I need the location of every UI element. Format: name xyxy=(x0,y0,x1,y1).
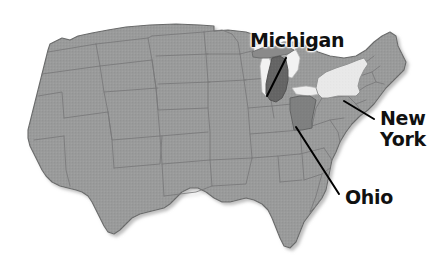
state-label-new-york: New York xyxy=(380,108,426,150)
us-map-graphic xyxy=(0,0,437,278)
map-landmass xyxy=(28,24,406,248)
map-figure: Michigan New York Ohio xyxy=(0,0,437,278)
landmass-texture xyxy=(28,24,406,248)
state-label-michigan: Michigan xyxy=(250,30,344,51)
state-label-ohio: Ohio xyxy=(345,187,393,208)
state-ohio xyxy=(290,96,316,130)
